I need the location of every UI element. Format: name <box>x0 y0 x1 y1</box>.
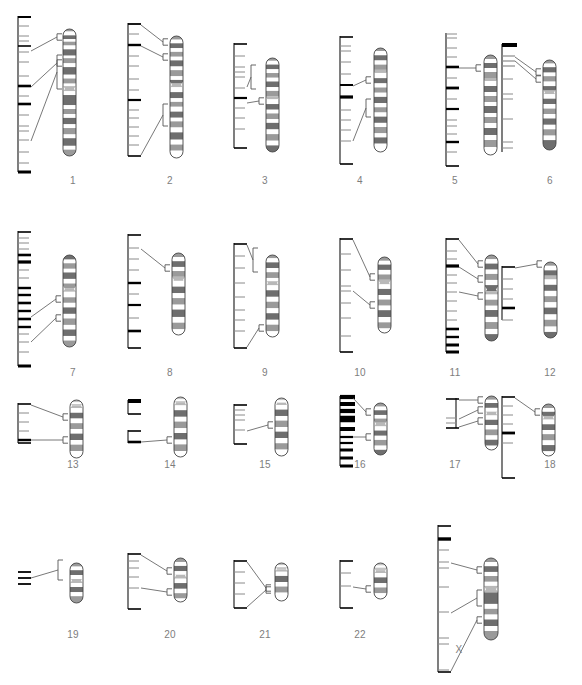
connector-1[interactable] <box>31 55 62 141</box>
connector-1[interactable] <box>31 34 62 51</box>
connector-2[interactable] <box>141 104 168 155</box>
ideogram-19[interactable] <box>70 563 83 603</box>
ruler-9[interactable] <box>234 243 247 348</box>
connector-12[interactable] <box>515 261 542 268</box>
ideogram-band <box>374 573 387 577</box>
connector-11[interactable] <box>459 240 483 267</box>
connector-11[interactable] <box>459 292 483 299</box>
ruler-6[interactable] <box>502 44 517 152</box>
ideogram-band <box>378 306 391 311</box>
connector-3[interactable] <box>247 98 264 104</box>
ideogram-X[interactable] <box>484 558 498 640</box>
ruler-11[interactable] <box>446 238 459 352</box>
ruler-1[interactable] <box>18 16 31 172</box>
ideogram-15[interactable] <box>275 398 288 456</box>
connector-17[interactable] <box>459 418 483 427</box>
ideogram-band <box>70 406 83 408</box>
ideogram-4[interactable] <box>374 48 387 152</box>
connector-13[interactable] <box>31 405 68 420</box>
ideogram-band <box>374 426 387 430</box>
connector-3[interactable] <box>247 65 256 89</box>
connector-X[interactable] <box>451 563 482 573</box>
connector-22[interactable] <box>353 586 371 592</box>
ideogram-band <box>170 84 183 88</box>
ruler-12[interactable] <box>502 266 515 320</box>
ideogram-band <box>172 323 185 330</box>
chromosome-label-12: 12 <box>540 368 560 378</box>
connector-4[interactable] <box>353 77 371 86</box>
ruler-17[interactable] <box>446 398 459 428</box>
ideogram-1[interactable] <box>63 29 76 156</box>
connector-15[interactable] <box>247 422 273 431</box>
ruler-2[interactable] <box>128 23 141 156</box>
ideogram-3[interactable] <box>266 58 279 152</box>
ideogram-band <box>374 568 387 571</box>
connector-X[interactable] <box>451 590 482 613</box>
connector-16[interactable] <box>353 398 371 415</box>
connector-9[interactable] <box>247 245 258 272</box>
connector-10[interactable] <box>353 291 375 308</box>
ruler-22[interactable] <box>340 560 353 608</box>
ruler-16[interactable] <box>340 396 355 466</box>
connector-10[interactable] <box>353 240 375 280</box>
ruler-20[interactable] <box>128 553 141 609</box>
ideogram-10[interactable] <box>378 257 391 333</box>
connector-9[interactable] <box>247 325 264 347</box>
ruler-8[interactable] <box>128 234 141 348</box>
ideogram-11[interactable] <box>485 255 498 341</box>
ruler-7[interactable] <box>18 231 31 366</box>
chromosome-panel-5 <box>446 33 497 166</box>
ruler-15[interactable] <box>234 404 247 444</box>
ideogram-20[interactable] <box>174 558 187 602</box>
ruler-10[interactable] <box>340 238 353 352</box>
ideogram-14[interactable] <box>174 397 187 457</box>
connector-11[interactable] <box>459 267 483 282</box>
ruler-13[interactable] <box>18 403 31 443</box>
ideogram-5[interactable] <box>484 55 497 155</box>
connector-21[interactable] <box>247 587 271 607</box>
ideogram-8[interactable] <box>172 253 185 335</box>
connector-18[interactable] <box>515 398 540 415</box>
ideogram-21[interactable] <box>275 563 288 601</box>
ideogram-band <box>543 94 556 99</box>
ruler-4[interactable] <box>340 36 353 164</box>
connector-20[interactable] <box>141 588 172 595</box>
ideogram-7[interactable] <box>63 255 76 347</box>
connector-2[interactable] <box>141 46 168 60</box>
connector-7[interactable] <box>31 315 61 342</box>
ruler-14[interactable] <box>128 400 141 443</box>
ruler-18[interactable] <box>502 396 515 478</box>
ruler-3[interactable] <box>234 43 247 148</box>
ruler-21[interactable] <box>234 560 247 608</box>
ruler-5[interactable] <box>446 33 459 166</box>
connector-13[interactable] <box>31 437 68 443</box>
ideogram-22[interactable] <box>374 563 387 599</box>
ideogram-18[interactable] <box>542 404 555 456</box>
ideogram-band <box>70 592 83 596</box>
connector-4[interactable] <box>353 99 371 141</box>
ideogram-17[interactable] <box>485 396 498 450</box>
connector-8[interactable] <box>141 249 170 271</box>
connector-bracket <box>163 39 168 45</box>
ideogram-6[interactable] <box>543 60 556 150</box>
ideogram-12[interactable] <box>544 262 557 338</box>
connector-17[interactable] <box>459 407 483 419</box>
connector-line <box>459 240 478 264</box>
connector-2[interactable] <box>141 25 168 45</box>
ideogram-9[interactable] <box>266 255 279 337</box>
connector-17[interactable] <box>459 397 483 403</box>
ideogram-13[interactable] <box>70 400 83 458</box>
connector-16[interactable] <box>353 434 371 440</box>
connector-19[interactable] <box>31 560 63 580</box>
ideogram-band <box>63 118 76 124</box>
connector-7[interactable] <box>31 296 61 317</box>
connector-5[interactable] <box>459 65 481 71</box>
ideogram-16[interactable] <box>374 403 387 455</box>
connector-14[interactable] <box>141 437 172 443</box>
connector-6[interactable] <box>515 61 541 82</box>
connector-20[interactable] <box>141 555 172 574</box>
ideogram-band <box>484 592 498 603</box>
ideogram-2[interactable] <box>170 36 183 158</box>
ideogram-band <box>63 95 76 105</box>
ruler-19[interactable] <box>18 572 31 584</box>
